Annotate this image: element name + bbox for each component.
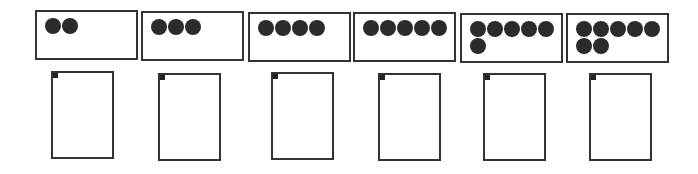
- corner-mark-icon: [380, 75, 385, 80]
- dot-icon: [576, 21, 592, 37]
- dot-icon: [593, 21, 609, 37]
- dot-icon: [380, 20, 396, 36]
- dot-icon: [258, 20, 274, 36]
- dot-icon: [470, 38, 486, 54]
- dot-group: [363, 20, 453, 36]
- dot-icon: [168, 19, 184, 35]
- dot-frame-6: [566, 13, 669, 63]
- dot-icon: [487, 21, 503, 37]
- dot-frame-3: [248, 12, 351, 62]
- dot-icon: [414, 20, 430, 36]
- dot-icon: [151, 19, 167, 35]
- dot-group: [151, 19, 241, 35]
- dot-frame-2: [141, 11, 244, 61]
- dot-group: [470, 21, 560, 54]
- dot-icon: [627, 21, 643, 37]
- dot-group: [258, 20, 348, 36]
- dot-icon: [593, 38, 609, 54]
- dot-frame-1: [35, 10, 138, 60]
- dot-group: [576, 21, 666, 54]
- dot-icon: [504, 21, 520, 37]
- dot-icon: [397, 20, 413, 36]
- dot-icon: [538, 21, 554, 37]
- corner-mark-icon: [591, 75, 596, 80]
- dot-frame-5: [460, 13, 563, 63]
- dot-icon: [62, 18, 78, 34]
- answer-card-1[interactable]: [51, 71, 114, 159]
- dot-icon: [309, 20, 325, 36]
- corner-mark-icon: [273, 74, 278, 79]
- dot-group: [45, 18, 135, 34]
- answer-card-5[interactable]: [483, 73, 546, 161]
- dot-icon: [576, 38, 592, 54]
- dot-icon: [521, 21, 537, 37]
- dot-icon: [644, 21, 660, 37]
- answer-card-6[interactable]: [589, 73, 652, 161]
- dot-icon: [45, 18, 61, 34]
- corner-mark-icon: [53, 73, 58, 78]
- dot-icon: [363, 20, 379, 36]
- corner-mark-icon: [160, 75, 165, 80]
- answer-card-3[interactable]: [271, 72, 334, 160]
- dot-icon: [275, 20, 291, 36]
- dot-icon: [185, 19, 201, 35]
- dot-frame-4: [353, 12, 456, 62]
- answer-card-4[interactable]: [378, 73, 441, 161]
- answer-card-2[interactable]: [158, 73, 221, 161]
- dot-icon: [610, 21, 626, 37]
- corner-mark-icon: [485, 75, 490, 80]
- dot-icon: [292, 20, 308, 36]
- dot-icon: [431, 20, 447, 36]
- dot-icon: [470, 21, 486, 37]
